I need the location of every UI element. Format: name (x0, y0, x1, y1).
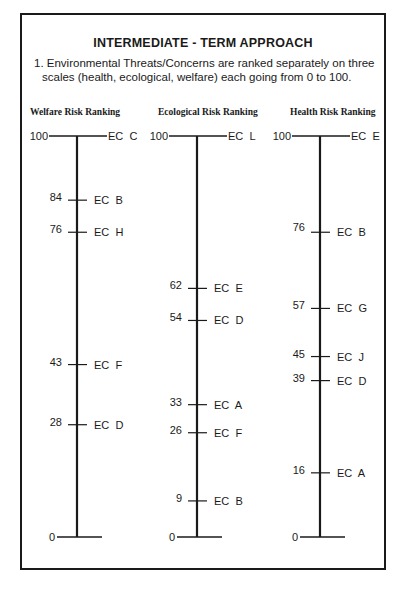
ecological-tick-value: 9 (176, 492, 182, 504)
health-tick-value: 45 (293, 348, 305, 360)
ecological-tick-value: 26 (170, 424, 182, 436)
health-tick-value: 76 (293, 221, 305, 233)
ecological-zero-label: 0 (169, 531, 175, 543)
ecological-concern-label: EC L (228, 130, 256, 142)
ranking-scales: 0100EC C84EC B76EC H43EC F28EC D0100EC L… (0, 0, 406, 594)
welfare-tick-value: 76 (50, 223, 62, 235)
health-concern-label: EC E (351, 130, 380, 142)
ecological-concern-label: EC D (214, 314, 243, 326)
health-concern-label: EC B (337, 226, 366, 238)
health-concern-label: EC J (337, 351, 364, 363)
welfare-concern-label: EC C (108, 130, 137, 142)
health-concern-label: EC G (337, 302, 367, 314)
welfare-tick-value: 28 (50, 416, 62, 428)
health-zero-label: 0 (292, 531, 298, 543)
welfare-concern-label: EC F (94, 359, 122, 371)
ecological-tick-value: 33 (170, 396, 182, 408)
welfare-concern-label: EC B (94, 194, 123, 206)
health-tick-value: 100 (273, 130, 291, 142)
welfare-concern-label: EC H (94, 226, 123, 238)
ecological-tick-value: 62 (170, 279, 182, 291)
ecological-concern-label: EC A (214, 399, 243, 411)
welfare-tick-value: 43 (50, 356, 62, 368)
health-tick-value: 16 (293, 464, 305, 476)
ecological-concern-label: EC E (214, 282, 243, 294)
welfare-concern-label: EC D (94, 419, 123, 431)
ecological-concern-label: EC B (214, 495, 243, 507)
health-tick-value: 57 (293, 299, 305, 311)
health-concern-label: EC A (337, 467, 366, 479)
ecological-tick-value: 54 (170, 311, 182, 323)
ecological-tick-value: 100 (150, 130, 168, 142)
welfare-zero-label: 0 (49, 531, 55, 543)
welfare-tick-value: 84 (50, 191, 62, 203)
health-concern-label: EC D (337, 375, 366, 387)
ecological-concern-label: EC F (214, 427, 242, 439)
health-tick-value: 39 (293, 372, 305, 384)
welfare-tick-value: 100 (30, 130, 48, 142)
